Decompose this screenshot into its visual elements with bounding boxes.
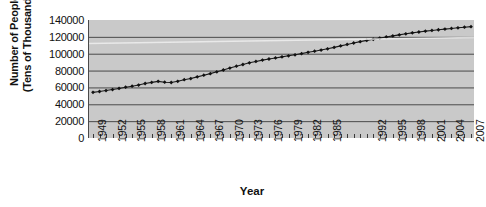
- x-axis-tick-label: 1998: [415, 119, 427, 142]
- y-axis-title-line-1: Number of People: [8, 0, 21, 107]
- y-axis-tick-labels: 020000400006000080000100000120000140000: [36, 14, 88, 140]
- data-point: [274, 56, 278, 60]
- x-axis-tick-label: 1995: [396, 119, 408, 142]
- data-point: [326, 47, 330, 51]
- data-point: [339, 44, 343, 48]
- data-point: [358, 40, 362, 44]
- x-axis-tick-label: 1958: [155, 119, 167, 142]
- data-point: [384, 35, 388, 39]
- x-axis-tick-label: 2001: [435, 119, 447, 142]
- x-axis-tick-label: 1976: [272, 119, 284, 142]
- x-axis-tick-label: 1973: [252, 119, 264, 142]
- x-axis-tick-label: 1961: [174, 119, 186, 142]
- x-axis-tick-label: 1970: [233, 119, 245, 142]
- x-axis-tick-label: 1955: [135, 119, 147, 142]
- data-point: [371, 37, 375, 41]
- data-point: [319, 48, 323, 52]
- data-point: [365, 38, 369, 42]
- x-axis-tick-label: 1985: [331, 119, 343, 142]
- y-axis-tick-label: 40000: [55, 98, 84, 110]
- data-point: [163, 80, 167, 84]
- x-axis-title: Year: [0, 185, 476, 197]
- data-point: [267, 57, 271, 61]
- data-line: [93, 27, 471, 93]
- data-point: [248, 61, 252, 65]
- data-point: [378, 36, 382, 40]
- data-point: [241, 63, 245, 67]
- x-axis-tick-label: 1964: [194, 119, 206, 142]
- data-point: [176, 79, 180, 83]
- data-point: [352, 41, 356, 45]
- y-axis-tick-label: 100000: [49, 48, 84, 60]
- y-axis-tick-label: 20000: [55, 115, 84, 127]
- x-axis-tick-labels: 1949195219551958196119641967197019731976…: [0, 140, 476, 186]
- y-axis-tick-label: 140000: [49, 14, 84, 26]
- data-point: [332, 45, 336, 49]
- data-point: [124, 85, 128, 89]
- x-axis-tick-label: 1967: [213, 119, 225, 142]
- x-axis-tick-label: 1982: [311, 119, 323, 142]
- data-point: [228, 66, 232, 70]
- x-axis-tick-label: 1992: [376, 119, 388, 142]
- data-point: [156, 79, 160, 83]
- x-axis-tick-label: 2007: [474, 119, 486, 142]
- data-point: [254, 60, 258, 64]
- data-point: [208, 72, 212, 76]
- data-point: [261, 58, 265, 62]
- data-point: [443, 27, 447, 31]
- scan-artifact: [89, 38, 474, 44]
- data-point: [104, 89, 108, 93]
- data-point: [410, 31, 414, 35]
- gridlines: [89, 21, 474, 122]
- data-point: [91, 90, 95, 94]
- data-point: [450, 27, 454, 31]
- data-point: [98, 90, 102, 94]
- y-axis-tick-label: 60000: [55, 81, 84, 93]
- data-point: [404, 32, 408, 36]
- data-markers: [91, 25, 473, 95]
- data-point: [215, 70, 219, 74]
- data-point: [397, 33, 401, 37]
- x-axis-tick-label: 1979: [292, 119, 304, 142]
- y-axis-title: Number of People (Tens of Thousands): [8, 0, 33, 107]
- data-point: [150, 80, 154, 84]
- data-point: [430, 29, 434, 33]
- data-point: [234, 64, 238, 68]
- data-point: [117, 87, 121, 91]
- data-point: [463, 25, 467, 29]
- data-point: [306, 50, 310, 54]
- data-point: [469, 25, 473, 29]
- x-axis-tick-label: 1952: [116, 119, 128, 142]
- data-point: [345, 43, 349, 47]
- data-point: [189, 77, 193, 81]
- x-axis-tick-label: 2004: [454, 119, 466, 142]
- y-axis-title-line-2: (Tens of Thousands): [20, 0, 33, 107]
- x-axis-tick-label: 1949: [96, 119, 108, 142]
- data-point: [280, 55, 284, 59]
- data-point: [169, 81, 173, 85]
- data-point: [313, 49, 317, 53]
- data-point: [456, 26, 460, 30]
- data-point: [137, 83, 141, 87]
- data-point: [293, 53, 297, 57]
- data-point: [417, 30, 421, 34]
- y-axis-tick-label: 120000: [49, 31, 84, 43]
- y-axis-tick-label: 80000: [55, 65, 84, 77]
- data-point: [437, 28, 441, 32]
- data-point: [143, 82, 147, 86]
- data-point: [202, 73, 206, 77]
- data-point: [195, 75, 199, 79]
- data-point: [182, 78, 186, 82]
- data-point: [423, 29, 427, 33]
- data-point: [300, 52, 304, 56]
